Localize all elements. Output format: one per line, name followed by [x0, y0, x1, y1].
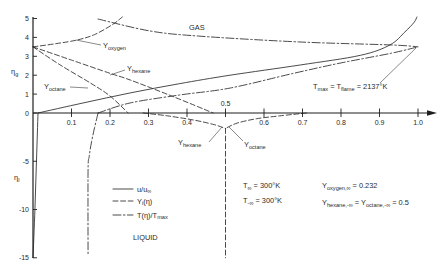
series-curve-4	[88, 113, 98, 254]
y-tick-label: -5	[23, 158, 29, 165]
x-tick-label: 1.0	[413, 119, 423, 126]
legend-item-mass-fraction: Yi(η)	[113, 197, 152, 207]
x-tick-label: 0.3	[144, 119, 154, 126]
y-hexane-gas-pointer	[110, 70, 125, 75]
y-octane-gas-pointer	[70, 87, 88, 88]
x-tick-label: 0.2	[105, 119, 115, 126]
chart-figure: 0.10.20.30.40.50.60.70.80.91.0543210-5-1…	[0, 0, 444, 276]
y-tick-label: 0	[25, 110, 29, 117]
y-octane-liquid-label: Yoctane	[244, 140, 266, 150]
series-curve-6	[33, 47, 213, 113]
y-liquid-inf-label: Yhexane,-∞ = Yoctane,-∞ = 0.5	[322, 198, 409, 208]
x-tick-label: 0.8	[336, 119, 346, 126]
gas-region-label: GAS	[189, 23, 205, 32]
y-tick-label: -10	[19, 206, 29, 213]
y-tick-label: 4	[25, 34, 29, 41]
series-layer	[33, 17, 418, 258]
x-tick-label: 0.9	[375, 119, 385, 126]
y-octane-gas-label: Yoctane	[44, 82, 66, 92]
x-tick-label: 0.6	[259, 119, 269, 126]
x-tick-label: 0.4	[182, 119, 192, 126]
legend: u/u∞ Yi(η) T(η)/Tmax	[113, 185, 168, 221]
series-curve-1	[33, 113, 38, 258]
y-octane-liquid-pointer	[229, 127, 243, 141]
y-axis-label-liquid: ηl	[14, 173, 19, 183]
x-tick-label: 0.1	[67, 119, 77, 126]
y-tick-label: 3	[25, 53, 29, 60]
t-max-label: Tmax = Tflame = 2137°K	[313, 82, 387, 92]
y-tick-label: -15	[19, 254, 29, 261]
svg-text:T(η)/Tmax: T(η)/Tmax	[137, 211, 168, 221]
x-tick-label: 0.7	[298, 119, 308, 126]
y-axis-label-gas: ηg	[11, 67, 18, 77]
y-tick-label: 2	[25, 72, 29, 79]
liquid-region-label: LIQUID	[133, 233, 158, 242]
y-tick-label: 5	[25, 15, 29, 22]
series-curve-3	[98, 47, 418, 113]
y-oxygen-pointer	[76, 40, 101, 45]
legend-item-temperature: T(η)/Tmax	[113, 211, 168, 221]
legend-item-velocity: u/u∞	[113, 185, 151, 195]
t-minus-inf-label: T-∞ = 300°K	[243, 196, 282, 206]
t-max-arrow	[380, 48, 416, 83]
y-tick-label: 1	[25, 91, 29, 98]
axes	[33, 17, 437, 258]
t-inf-label: T∞ = 300°K	[243, 181, 280, 191]
x-tick-label: 0.5	[221, 100, 231, 107]
series-curve-0	[38, 17, 417, 113]
y-hexane-gas-label: Yhexane	[127, 64, 150, 74]
svg-text:u/u∞: u/u∞	[137, 185, 151, 195]
y-oxygen-inf-label: Yoxygen,∞ = 0.232	[322, 181, 377, 191]
y-hexane-liquid-label: Yhexane	[178, 138, 201, 148]
x-axis-arrow-icon	[427, 110, 437, 116]
tick-layer: 0.10.20.30.40.50.60.70.80.91.0543210-5-1…	[19, 15, 423, 261]
y-oxygen-label: Yoxygen	[103, 41, 126, 51]
y-hexane-liquid-pointer	[209, 127, 222, 142]
series-curve-2	[98, 19, 418, 47]
series-curve-7	[33, 47, 128, 113]
svg-text:Yi(η): Yi(η)	[137, 197, 152, 207]
